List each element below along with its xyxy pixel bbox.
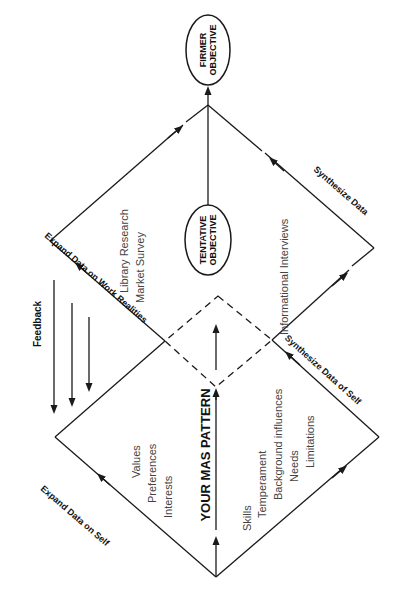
arrow-self-right bbox=[332, 468, 344, 478]
expand-self-label: Expand Data on Self bbox=[39, 484, 112, 549]
edge-work-left-upper bbox=[50, 125, 183, 241]
arrow-synthesize-self bbox=[288, 354, 300, 365]
edge-synthesize-data-top bbox=[208, 105, 262, 151]
list-item-background: Background influences bbox=[272, 388, 284, 500]
list-item-informational-interviews: Informational Interviews bbox=[278, 218, 290, 335]
arrow-work-right bbox=[332, 275, 345, 286]
firmer-label-2: OBJECTIVE bbox=[208, 24, 218, 75]
arrow-expand-self bbox=[100, 476, 110, 485]
list-item-library-research: Library Research bbox=[118, 209, 130, 293]
list-item-temperament: Temperament bbox=[256, 451, 268, 518]
firmer-label-1: FIRMER bbox=[198, 32, 208, 67]
career-diagram: FIRMER OBJECTIVE TENTATIVE OBJECTIVE YOU… bbox=[0, 0, 399, 595]
edge-work-left-top bbox=[186, 105, 208, 122]
list-item-market-survey: Market Survey bbox=[134, 232, 146, 303]
synthesize-data-label: Synthesize Data bbox=[312, 164, 371, 217]
mas-pattern-label: YOUR MAS PATTERN bbox=[198, 388, 213, 521]
arrow-work-left-upper bbox=[168, 128, 180, 138]
edge-work-right-lower2 bbox=[352, 248, 374, 266]
list-item-limitations: Limitations bbox=[304, 415, 316, 468]
feedback-label: Feedback bbox=[32, 300, 43, 347]
dashed-diamond bbox=[165, 296, 272, 387]
tentative-label-2: OBJECTIVE bbox=[208, 214, 218, 265]
list-item-values: Values bbox=[130, 445, 142, 478]
list-item-skills: Skills bbox=[241, 505, 253, 531]
list-item-preferences: Preferences bbox=[146, 443, 158, 503]
synthesize-self-label: Synthesize Data of Self bbox=[283, 333, 364, 407]
list-item-interests: Interests bbox=[162, 475, 174, 518]
tentative-label-1: TENTATIVE bbox=[198, 216, 208, 265]
arrow-synthesize-data bbox=[272, 160, 284, 171]
list-item-needs: Needs bbox=[288, 450, 300, 482]
